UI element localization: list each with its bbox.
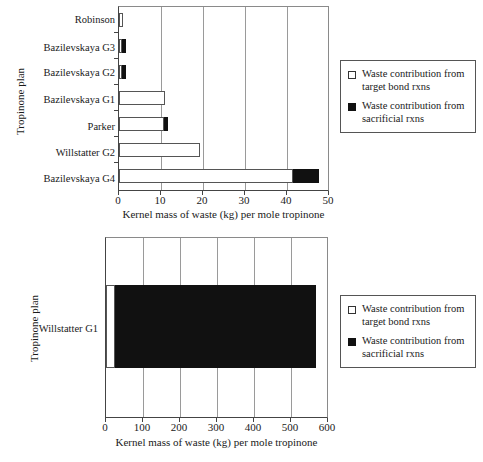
open-square-swatch-icon bbox=[348, 306, 356, 314]
top-chart-bar-bazilevskaya-g3-sacrificial-segment bbox=[122, 39, 126, 53]
top-chart-bar-parker-sacrificial-segment bbox=[164, 117, 168, 131]
top-chart-xaxis-title: Kernel mass of waste (kg) per mole tropi… bbox=[118, 208, 329, 220]
top-chart-bar-bazilevskaya-g2 bbox=[119, 65, 126, 79]
bottom-chart-legend-entry-sacrificial: Waste contribution from sacrificial rxns bbox=[348, 335, 467, 360]
top-chart-category-label-parker: Parker bbox=[88, 121, 115, 132]
top-chart-bar-willstatter-g2 bbox=[119, 143, 200, 157]
top-chart-legend-label-sacrificial: Waste contribution from sacrificial rxns bbox=[362, 100, 467, 125]
top-chart-category-label-bazilevskaya-g1: Bazilevskaya G1 bbox=[44, 94, 115, 105]
bottom-chart-xtick-label-200: 200 bbox=[171, 421, 188, 433]
top-chart-xtick-label-20: 20 bbox=[197, 194, 208, 206]
bottom-chart-xtick-label-0: 0 bbox=[102, 421, 108, 433]
bottom-chart-bar-willstatter-g1 bbox=[106, 285, 316, 368]
bottom-chart-category-label-willstatter-g1: Willstatter G1 bbox=[39, 323, 98, 334]
bottom-chart-legend-label-target-bond: Waste contribution from target bond rxns bbox=[362, 303, 467, 328]
top-chart-bar-bazilevskaya-g2-sacrificial-segment bbox=[122, 65, 126, 79]
top-chart-bar-willstatter-g2-target-segment bbox=[119, 143, 200, 157]
bottom-chart-xtick-label-400: 400 bbox=[245, 421, 262, 433]
top-chart-ytick-1 bbox=[114, 58, 118, 59]
top-chart-category-label-robinson: Robinson bbox=[75, 14, 115, 25]
bottom-chart-xtick-label-100: 100 bbox=[134, 421, 151, 433]
filled-square-swatch-icon bbox=[348, 103, 356, 111]
top-chart-legend: Waste contribution from target bond rxns… bbox=[340, 60, 476, 133]
top-chart-bar-bazilevskaya-g4-target-segment bbox=[119, 169, 293, 183]
bottom-chart-legend-entry-target-bond: Waste contribution from target bond rxns bbox=[348, 303, 467, 328]
top-chart-bar-robinson bbox=[119, 13, 123, 27]
top-chart-category-label-willstatter-g2: Willstatter G2 bbox=[56, 147, 115, 158]
top-chart-xtick-label-10: 10 bbox=[155, 194, 166, 206]
top-chart-bar-parker-target-segment bbox=[119, 117, 164, 131]
top-chart-ytick-4 bbox=[114, 136, 118, 137]
top-chart-bar-bazilevskaya-g1 bbox=[119, 91, 165, 105]
top-chart-bar-robinson-target-segment bbox=[119, 13, 123, 27]
bottom-chart-xtick-label-300: 300 bbox=[208, 421, 225, 433]
bottom-chart-xtick-label-500: 500 bbox=[282, 421, 299, 433]
top-chart-bar-bazilevskaya-g1-target-segment bbox=[119, 91, 165, 105]
top-chart-yaxis-title: Tropinone plan bbox=[14, 68, 26, 135]
bottom-chart-bar-willstatter-g1-sacrificial-segment bbox=[115, 285, 316, 368]
bottom-chart-legend-label-sacrificial: Waste contribution from sacrificial rxns bbox=[362, 335, 467, 360]
top-chart-bar-bazilevskaya-g4 bbox=[119, 169, 319, 183]
top-chart-category-label-bazilevskaya-g3: Bazilevskaya G3 bbox=[44, 42, 115, 53]
figure-root: Tropinone plan Robinson Bazilevskaya G3 … bbox=[0, 0, 483, 462]
bottom-chart-xtick-label-600: 600 bbox=[319, 421, 336, 433]
top-chart-xtick-label-0: 0 bbox=[115, 194, 121, 206]
open-square-swatch-icon bbox=[348, 71, 356, 79]
filled-square-swatch-icon bbox=[348, 338, 356, 346]
top-chart-legend-entry-target-bond: Waste contribution from target bond rxns bbox=[348, 68, 467, 93]
top-chart-bar-bazilevskaya-g4-sacrificial-segment bbox=[293, 169, 319, 183]
top-chart-plot-area bbox=[118, 6, 329, 191]
top-chart: Tropinone plan Robinson Bazilevskaya G3 … bbox=[0, 0, 483, 225]
top-chart-ytick-0 bbox=[114, 32, 118, 33]
top-chart-bar-parker bbox=[119, 117, 168, 131]
bottom-chart-xaxis-title: Kernel mass of waste (kg) per mole tropi… bbox=[105, 436, 328, 448]
top-chart-ytick-2 bbox=[114, 84, 118, 85]
bottom-chart-legend: Waste contribution from target bond rxns… bbox=[340, 295, 476, 368]
top-chart-bar-bazilevskaya-g3 bbox=[119, 39, 126, 53]
top-chart-category-label-bazilevskaya-g4: Bazilevskaya G4 bbox=[44, 173, 115, 184]
top-chart-xtick-label-40: 40 bbox=[281, 194, 292, 206]
top-chart-legend-label-target-bond: Waste contribution from target bond rxns bbox=[362, 68, 467, 93]
top-chart-ytick-5 bbox=[114, 162, 118, 163]
top-chart-xtick-label-30: 30 bbox=[239, 194, 250, 206]
top-chart-gridline-30 bbox=[245, 7, 246, 190]
top-chart-category-label-bazilevskaya-g2: Bazilevskaya G2 bbox=[44, 67, 115, 78]
top-chart-xtick-label-50: 50 bbox=[323, 194, 334, 206]
top-chart-legend-entry-sacrificial: Waste contribution from sacrificial rxns bbox=[348, 100, 467, 125]
top-chart-gridline-20 bbox=[203, 7, 204, 190]
top-chart-ytick-3 bbox=[114, 110, 118, 111]
bottom-chart-bar-willstatter-g1-target-segment bbox=[106, 285, 115, 368]
bottom-chart-plot-area bbox=[105, 237, 328, 418]
bottom-chart: Tropinone plan Willstatter G1 0 100 200 bbox=[0, 232, 483, 462]
top-chart-gridline-40 bbox=[287, 7, 288, 190]
